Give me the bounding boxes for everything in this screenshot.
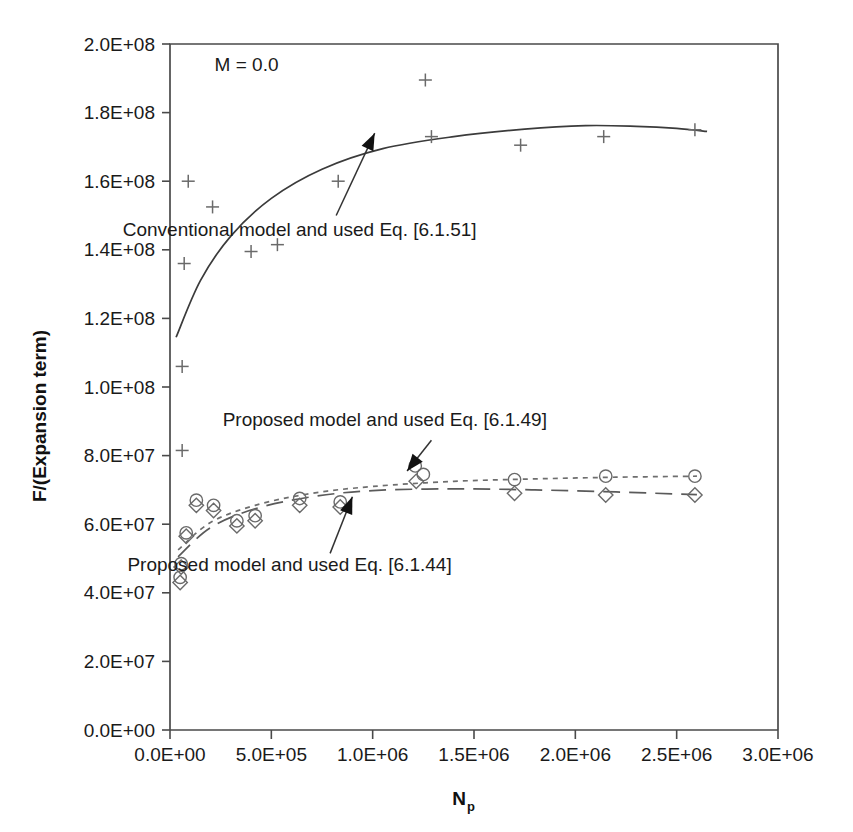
x-tick-label: 2.5E+06 <box>641 744 712 765</box>
series-label-2: Proposed model and used Eq. [6.1.44] <box>127 554 451 575</box>
y-tick-label: 1.0E+08 <box>84 377 155 398</box>
x-tick-label: 0.0E+00 <box>134 744 205 765</box>
y-tick-label: 1.6E+08 <box>84 171 155 192</box>
x-axis-title-base: N <box>452 788 466 809</box>
figure-root: 0.0E+002.0E+074.0E+076.0E+078.0E+071.0E+… <box>0 0 853 832</box>
y-tick-label: 8.0E+07 <box>84 445 155 466</box>
y-tick-label: 1.2E+08 <box>84 308 155 329</box>
x-tick-label: 3.0E+06 <box>742 744 813 765</box>
y-tick-label: 1.8E+08 <box>84 102 155 123</box>
series-label-1: Proposed model and used Eq. [6.1.49] <box>223 409 547 430</box>
chart-canvas: 0.0E+002.0E+074.0E+076.0E+078.0E+071.0E+… <box>0 0 853 832</box>
x-tick-label: 2.0E+06 <box>540 744 611 765</box>
y-tick-label: 2.0E+08 <box>84 34 155 55</box>
y-tick-label: 4.0E+07 <box>84 582 155 603</box>
y-axis-title: F/(Expansion term) <box>29 330 50 502</box>
y-tick-label: 1.4E+08 <box>84 239 155 260</box>
x-tick-label: 1.0E+06 <box>337 744 408 765</box>
x-axis-title-subscript: p <box>467 799 475 814</box>
x-tick-label: 1.5E+06 <box>438 744 509 765</box>
x-tick-label: 5.0E+05 <box>236 744 307 765</box>
series-label-0: Conventional model and used Eq. [6.1.51] <box>123 219 477 240</box>
condition-label: M = 0.0 <box>215 54 279 75</box>
y-tick-label: 2.0E+07 <box>84 651 155 672</box>
y-tick-label: 6.0E+07 <box>84 514 155 535</box>
y-tick-label: 0.0E+00 <box>84 720 155 741</box>
